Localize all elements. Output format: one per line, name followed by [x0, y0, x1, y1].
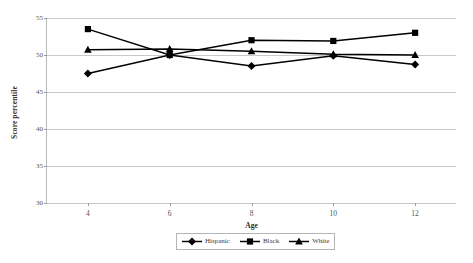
plot-area: 303540455055 4681012 Age — [46, 18, 456, 204]
legend-marker-triangle-icon — [288, 237, 310, 246]
legend-marker-square-icon — [239, 237, 261, 246]
x-axis-title: Age — [47, 221, 456, 230]
x-tick-mark — [415, 203, 416, 206]
y-tick-label: 30 — [36, 199, 43, 207]
y-tick-mark — [44, 203, 47, 204]
data-point-diamond — [188, 238, 196, 246]
legend-label: White — [312, 237, 329, 246]
legend-label: Black — [263, 237, 279, 246]
data-point-diamond — [248, 62, 256, 70]
legend-marker-diamond-icon — [181, 237, 203, 246]
x-tick-label: 8 — [250, 209, 254, 218]
y-axis-title: Score percentile — [10, 53, 19, 173]
data-point-square — [330, 38, 336, 44]
legend-item-white[interactable]: White — [288, 237, 329, 246]
data-point-square — [167, 52, 173, 58]
legend-item-black[interactable]: Black — [239, 237, 279, 246]
data-point-diamond — [84, 70, 92, 78]
x-tick-label: 12 — [411, 209, 419, 218]
series-layer — [47, 18, 456, 203]
x-tick-mark — [333, 203, 334, 206]
y-tick-label: 55 — [36, 14, 43, 22]
y-tick-label: 40 — [36, 125, 43, 133]
y-tick-label: 45 — [36, 88, 43, 96]
x-tick-mark — [170, 203, 171, 206]
x-tick-mark — [88, 203, 89, 206]
x-tick-label: 4 — [86, 209, 90, 218]
x-tick-label: 10 — [330, 209, 338, 218]
x-tick-label: 6 — [168, 209, 172, 218]
legend-item-hispanic[interactable]: Hispanic — [181, 237, 230, 246]
data-point-square — [85, 26, 91, 32]
data-point-square — [248, 37, 254, 43]
chart-container: Score percentile 303540455055 4681012 Ag… — [0, 0, 473, 263]
chart-legend: HispanicBlackWhite — [176, 233, 335, 250]
data-point-square — [247, 238, 253, 244]
data-point-diamond — [411, 61, 419, 69]
x-tick-mark — [252, 203, 253, 206]
y-tick-label: 50 — [36, 51, 43, 59]
data-point-square — [412, 30, 418, 36]
legend-label: Hispanic — [205, 237, 230, 246]
y-tick-label: 35 — [36, 162, 43, 170]
